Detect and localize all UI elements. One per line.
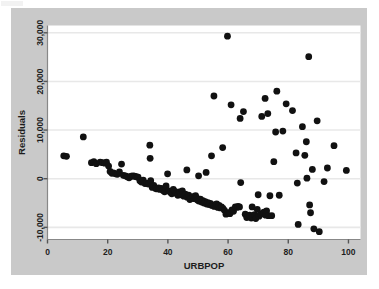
x-axis-title: URBPOP [184, 260, 225, 271]
data-point [183, 167, 190, 174]
data-point [262, 95, 269, 102]
data-point [237, 115, 244, 122]
data-point [268, 212, 275, 219]
y-tick-label-3: 20,000 [35, 68, 45, 94]
data-point [343, 167, 350, 174]
y-tick-label-2: 10,000 [35, 117, 45, 143]
data-point [283, 100, 290, 107]
data-point [203, 169, 210, 176]
data-point [303, 138, 310, 145]
data-point [270, 158, 277, 165]
data-point [237, 179, 244, 186]
data-point [305, 53, 312, 60]
data-point [118, 161, 125, 168]
data-point [63, 153, 70, 160]
data-point [314, 117, 321, 124]
data-point [267, 192, 274, 199]
x-tick-label-0: 0 [45, 247, 50, 257]
data-point [293, 150, 300, 157]
data-point [147, 155, 154, 162]
data-point [295, 221, 302, 228]
data-point [273, 88, 280, 95]
data-point [331, 142, 338, 149]
data-point [80, 133, 87, 140]
data-point [301, 152, 308, 159]
x-tick-label-5: 100 [341, 247, 355, 257]
residuals-vs-urbpop-chart: -10,000010,00020,00030,000020406080100UR… [0, 0, 379, 289]
scatter-plot-figure: -10,000010,00020,00030,000020406080100UR… [0, 0, 379, 289]
data-point [272, 129, 279, 136]
data-point [224, 33, 231, 40]
data-point [208, 152, 215, 159]
data-point [236, 204, 243, 211]
data-point [316, 228, 323, 235]
data-point [211, 93, 218, 100]
data-point [276, 192, 283, 199]
data-point [258, 113, 265, 120]
data-point [306, 202, 313, 209]
data-point [219, 144, 226, 151]
data-point [309, 166, 316, 173]
x-tick-label-2: 40 [163, 247, 173, 257]
data-point [195, 172, 202, 179]
data-point [289, 107, 296, 114]
data-point [146, 142, 153, 149]
data-point [307, 209, 314, 216]
x-tick-label-4: 80 [284, 247, 294, 257]
data-point [240, 108, 247, 115]
data-point [255, 191, 262, 198]
data-point [279, 128, 286, 135]
y-tick-label-1: 0 [35, 176, 45, 181]
x-tick-label-3: 60 [223, 247, 233, 257]
data-point [264, 110, 271, 117]
x-tick-label-1: 20 [103, 247, 113, 257]
data-point [324, 165, 331, 172]
data-point [294, 180, 301, 187]
plot-area [48, 26, 361, 240]
y-tick-label-0: -10,000 [35, 213, 45, 242]
data-point [299, 123, 306, 130]
data-point [304, 175, 311, 182]
data-point [228, 101, 235, 108]
data-point [321, 178, 328, 185]
data-point [164, 170, 171, 177]
y-axis-title: Residuals [16, 110, 27, 155]
y-tick-label-4: 30,000 [35, 20, 45, 46]
